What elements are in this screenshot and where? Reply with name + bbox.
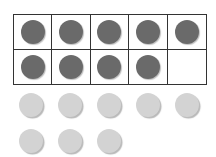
dark-counter <box>59 55 83 79</box>
ten-frame-cell <box>14 15 52 50</box>
dark-counter <box>21 55 45 79</box>
dark-counter <box>97 55 121 79</box>
ten-frame-cell <box>52 15 90 50</box>
loose-counters <box>19 93 199 153</box>
dark-counter <box>59 20 83 44</box>
light-counter <box>136 93 160 117</box>
dark-counter <box>97 20 121 44</box>
dark-counter <box>136 55 160 79</box>
light-counter <box>97 129 121 153</box>
ten-frame <box>13 14 207 85</box>
ten-frame-cell <box>91 50 129 85</box>
light-counter <box>175 93 199 117</box>
ten-frame-cell <box>91 15 129 50</box>
light-counter <box>19 93 43 117</box>
light-counter <box>19 129 43 153</box>
ten-frame-cell <box>14 50 52 85</box>
ten-frame-cell <box>129 50 167 85</box>
light-counter <box>97 93 121 117</box>
light-counter <box>58 129 82 153</box>
dark-counter <box>175 20 199 44</box>
ten-frame-cell-empty <box>168 50 206 85</box>
ten-frame-cell <box>129 15 167 50</box>
dark-counter <box>136 20 160 44</box>
light-counter <box>58 93 82 117</box>
dark-counter <box>21 20 45 44</box>
ten-frame-cell <box>52 50 90 85</box>
ten-frame-cell <box>168 15 206 50</box>
